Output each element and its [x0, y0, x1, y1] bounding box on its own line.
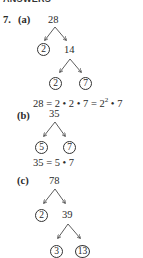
arrow-c2-left [58, 224, 68, 238]
arrow-b-left [44, 122, 55, 136]
arrow-a1-left [45, 27, 55, 40]
arrow-a1-right [55, 27, 66, 40]
arrow-c2-right [68, 224, 80, 238]
arrow-c1-left [44, 189, 55, 203]
arrow-a2-right [70, 59, 81, 72]
arrow-a2-left [60, 59, 70, 72]
arrow-b-right [55, 122, 65, 136]
arrow-c1-right [55, 189, 65, 203]
